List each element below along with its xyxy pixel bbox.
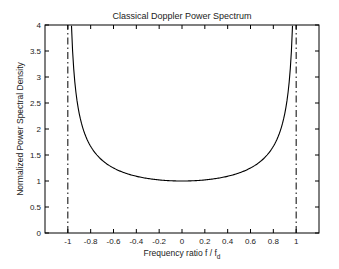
x-tick-label: 0.6 — [245, 237, 257, 246]
y-tick-label: 0 — [37, 229, 42, 238]
y-tick-label: 1 — [37, 177, 42, 186]
x-tick-label: 0.8 — [268, 237, 280, 246]
x-axis-label-main: Frequency ratio f / f — [144, 248, 218, 258]
x-tick-label: -0.4 — [129, 237, 143, 246]
x-tick-label: -0.8 — [84, 237, 98, 246]
x-axis-label: Frequency ratio f / fd — [144, 248, 221, 260]
doppler-spectrum-chart: Classical Doppler Power Spectrum -1-0.8-… — [0, 0, 339, 269]
x-tick-label: -0.6 — [107, 237, 121, 246]
spectrum-curve — [71, 26, 292, 181]
x-tick-label: 0.4 — [222, 237, 234, 246]
y-tick-label: 4 — [37, 21, 42, 30]
x-tick-label: 0.2 — [199, 237, 211, 246]
plot-area — [68, 25, 296, 233]
y-tick-label: 2.5 — [30, 99, 42, 108]
y-axis-label: Normalized Power Spectral Density — [15, 61, 25, 195]
axes-box — [45, 25, 319, 233]
x-tick-label: -1 — [64, 237, 72, 246]
y-tick-label: 1.5 — [30, 151, 42, 160]
x-tick-label: 1 — [294, 237, 299, 246]
chart-title: Classical Doppler Power Spectrum — [112, 11, 251, 21]
x-tick-label: 0 — [180, 237, 185, 246]
y-tick-label: 2 — [37, 125, 42, 134]
x-tick-label: -0.2 — [152, 237, 166, 246]
y-tick-label: 0.5 — [30, 203, 42, 212]
y-tick-label: 3 — [37, 73, 42, 82]
x-axis-label-subscript: d — [217, 253, 221, 260]
y-tick-label: 3.5 — [30, 47, 42, 56]
